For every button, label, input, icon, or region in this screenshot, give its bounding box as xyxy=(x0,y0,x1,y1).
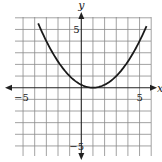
x-axis-arrow-right-icon xyxy=(150,85,157,91)
y-axis-arrow-up-icon xyxy=(78,12,84,19)
y-axis-arrow-down-icon xyxy=(78,153,84,160)
x-tick-label: −5 xyxy=(14,92,29,103)
x-axis-arrow-left-icon xyxy=(5,85,12,91)
y-tick-label: 5 xyxy=(73,24,79,35)
x-tick-label: 5 xyxy=(137,92,143,103)
x-axis-label: x xyxy=(157,82,162,95)
y-tick-label: −5 xyxy=(69,141,84,152)
y-axis-label: y xyxy=(77,0,85,12)
parabola-curve xyxy=(38,23,146,87)
axes xyxy=(5,12,157,160)
coordinate-plane: x y −555−5 xyxy=(0,0,162,162)
